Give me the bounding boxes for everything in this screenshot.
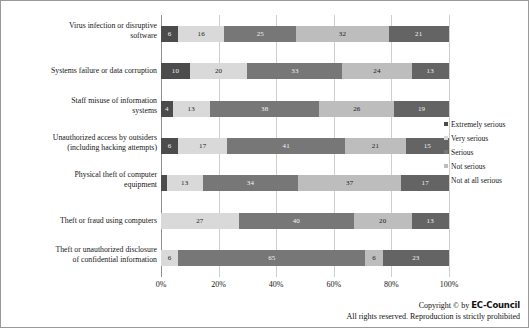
bar-segment: 4 <box>161 101 173 117</box>
bar-segment: 27 <box>161 213 239 229</box>
category-label-line: Theft or fraud using computers <box>0 216 157 226</box>
category-label-line: equipment <box>0 180 157 190</box>
category-label: Theft or unauthorized disclosureof confi… <box>0 245 157 264</box>
bar-segment: 6 <box>161 250 178 266</box>
bar-segment: 13 <box>173 101 210 117</box>
category-label-line: (including hacking attempts) <box>0 143 157 153</box>
bar-value-label: 32 <box>339 31 346 38</box>
bar-value-label: 27 <box>196 218 203 225</box>
bar-value-label: 10 <box>172 68 179 75</box>
bar-value-label: 20 <box>379 218 386 225</box>
x-axis-tick-label: 60% <box>326 280 341 289</box>
bar-segment: 23 <box>383 250 449 266</box>
bar-rows: 6162532211020332413413382619617412115133… <box>161 15 449 277</box>
x-axis-tick-label: 40% <box>269 280 284 289</box>
bar-value-label: 13 <box>427 218 434 225</box>
bar-value-label: 17 <box>199 143 206 150</box>
legend-item[interactable]: Not at all serious <box>444 173 529 187</box>
bar-value-label: 16 <box>198 31 205 38</box>
bar-value-label: 13 <box>181 180 188 187</box>
bar-row: 413382619 <box>161 101 449 117</box>
bar-segment: 10 <box>161 63 190 79</box>
legend-item[interactable]: Extremely serious <box>444 117 529 131</box>
bar-value-label: 21 <box>372 143 379 150</box>
bar-row: 27402013 <box>161 213 449 229</box>
category-label-line: Physical theft of computer <box>0 170 157 180</box>
bar-value-label: 33 <box>291 68 298 75</box>
bar-segment: 20 <box>190 63 248 79</box>
bar-segment: 6 <box>365 250 382 266</box>
bar-value-label: 19 <box>418 106 425 113</box>
bar-segment: 13 <box>412 213 449 229</box>
legend-label: Not serious <box>451 162 485 171</box>
bar-segment: 25 <box>224 26 296 42</box>
footer-copyright: Copyright © by EC-Council All rights res… <box>346 300 520 322</box>
category-label-line: Unauthorized access by outsiders <box>0 133 157 143</box>
bar-segment: 15 <box>406 138 449 154</box>
bar-value-label: 6 <box>372 255 376 262</box>
bar-value-label: 37 <box>346 180 353 187</box>
bar-value-label: 21 <box>415 31 422 38</box>
rights-line: All rights reserved. Reproduction is str… <box>346 311 520 322</box>
bar-segment: 65 <box>178 250 365 266</box>
category-label: Staff misuse of informationsystems <box>0 96 157 115</box>
bar-row: 616253221 <box>161 26 449 42</box>
bar-value-label: 26 <box>353 106 360 113</box>
bar-row: 13343717 <box>161 175 449 191</box>
bar-segment: 13 <box>167 175 203 191</box>
category-label: Systems failure or data corruption <box>0 66 157 76</box>
bar-value-label: 6 <box>168 31 172 38</box>
bar-value-label: 6 <box>168 143 172 150</box>
x-axis-tick-label: 0% <box>156 280 167 289</box>
bar-value-label: 41 <box>283 143 290 150</box>
legend-swatch-icon <box>444 136 448 140</box>
legend-label: Very serious <box>451 134 488 143</box>
bar-value-label: 38 <box>261 106 268 113</box>
bar-segment: 24 <box>342 63 411 79</box>
bar-row: 1020332413 <box>161 63 449 79</box>
brand-name: EC-Council <box>471 300 520 310</box>
bar-value-label: 6 <box>168 255 172 262</box>
bar-segment: 21 <box>345 138 405 154</box>
bar-segment: 41 <box>227 138 345 154</box>
bar-segment: 19 <box>394 101 449 117</box>
x-axis-tick-label: 100% <box>440 280 459 289</box>
legend: Extremely seriousVery seriousSeriousNot … <box>444 117 529 187</box>
legend-swatch-icon <box>444 178 448 182</box>
legend-label: Serious <box>451 148 474 157</box>
x-axis: 0%20%40%60%80%100% <box>161 277 449 293</box>
bar-value-label: 65 <box>268 255 275 262</box>
copyright-text: Copyright © by <box>419 301 472 310</box>
x-axis-tick-label: 80% <box>384 280 399 289</box>
bar-segment: 17 <box>178 138 227 154</box>
category-label-line: Theft or unauthorized disclosure <box>0 245 157 255</box>
bar-value-label: 20 <box>215 68 222 75</box>
bar-segment: 6 <box>161 138 178 154</box>
category-label-line: Systems failure or data corruption <box>0 66 157 76</box>
copyright-line: Copyright © by EC-Council <box>346 300 520 311</box>
bar-segment: 37 <box>298 175 401 191</box>
bar-segment: 33 <box>247 63 342 79</box>
bar-value-label: 13 <box>188 106 195 113</box>
bar-segment: 20 <box>354 213 412 229</box>
legend-item[interactable]: Not serious <box>444 159 529 173</box>
category-label: Unauthorized access by outsiders(includi… <box>0 133 157 152</box>
bar-row: 665623 <box>161 250 449 266</box>
bar-row: 617412115 <box>161 138 449 154</box>
legend-item[interactable]: Very serious <box>444 131 529 145</box>
legend-item[interactable]: Serious <box>444 145 529 159</box>
bar-value-label: 24 <box>373 68 380 75</box>
bar-segment: 26 <box>319 101 394 117</box>
legend-label: Not at all serious <box>451 176 502 185</box>
bar-value-label: 23 <box>412 255 419 262</box>
bar-segment: 17 <box>401 175 449 191</box>
x-axis-tick-label: 20% <box>211 280 226 289</box>
bar-value-label: 15 <box>424 143 431 150</box>
bar-value-label: 4 <box>165 106 169 113</box>
bar-value-label: 17 <box>422 180 429 187</box>
category-label: Theft or fraud using computers <box>0 216 157 226</box>
category-label-line: software <box>0 31 157 41</box>
category-label-line: Virus infection or disruptive <box>0 21 157 31</box>
legend-label: Extremely serious <box>451 120 505 129</box>
category-label-line: of confidential information <box>0 255 157 265</box>
